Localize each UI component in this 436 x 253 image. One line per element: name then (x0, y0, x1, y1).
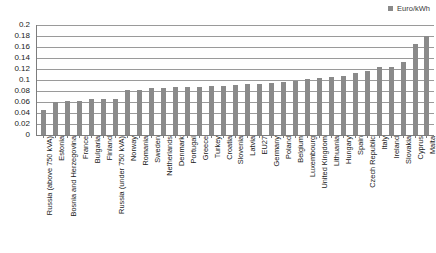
x-axis-label-slot: Bulgaria (85, 136, 97, 248)
y-axis-tick-labels: 00.020.040.060.080.10.120.140.160.180.2 (0, 21, 33, 135)
bar-slot (218, 25, 230, 135)
bar-slot (158, 25, 170, 135)
x-axis-label-slot: Lithuania (324, 136, 336, 248)
bar-slot (253, 25, 265, 135)
bar-slot (373, 25, 385, 135)
bar (209, 86, 214, 135)
x-axis-label-slot: Belgium (288, 136, 300, 248)
x-axis-label-slot: Italy (372, 136, 384, 248)
bar (353, 73, 358, 135)
bar-slot (301, 25, 313, 135)
bar-slot (38, 25, 50, 135)
y-axis-tick-label: 0.1 (19, 76, 30, 84)
x-axis-label-slot: Netherlands (157, 136, 169, 248)
legend-entry-label: Euro/kWh (397, 4, 430, 13)
bar (197, 87, 202, 135)
bar-slot (349, 25, 361, 135)
bar-slot (110, 25, 122, 135)
x-axis-label-slot: Latvia (240, 136, 252, 248)
x-axis-label-slot: Sweden (145, 136, 157, 248)
bar-chart: Euro/kWh 00.020.040.060.080.10.120.140.1… (0, 0, 436, 253)
y-axis-tick-label: 0.08 (14, 87, 30, 95)
bar-slot (86, 25, 98, 135)
bar (125, 90, 130, 135)
bar-slot (397, 25, 409, 135)
y-axis-tick-label: 0.04 (14, 109, 30, 117)
y-axis-tick-label: 0.12 (14, 65, 30, 73)
y-axis-tick-label: 0.16 (14, 43, 30, 51)
x-axis-label-slot: EU27 (252, 136, 264, 248)
bar-slot (265, 25, 277, 135)
bar (269, 83, 274, 135)
bar-slot (182, 25, 194, 135)
bar (317, 78, 322, 135)
square-marker-icon (388, 6, 393, 11)
x-axis-label-slot: Slovakia (396, 136, 408, 248)
bar-slot (50, 25, 62, 135)
bar (185, 87, 190, 135)
bar (53, 102, 58, 135)
y-axis-tick-label: 0.02 (14, 120, 30, 128)
bar (341, 76, 346, 135)
x-axis-label-slot: Finland (97, 136, 109, 248)
x-axis-label-slot: Luxembourg (300, 136, 312, 248)
y-axis-tick-label: 0.06 (14, 98, 30, 106)
bar (89, 99, 94, 135)
bar (65, 101, 70, 135)
x-axis-label-slot: Russia (above 750 kVA) (37, 136, 49, 248)
chart-legend: Euro/kWh (388, 2, 430, 14)
bar-slot (146, 25, 158, 135)
bar (77, 101, 82, 135)
x-axis-label-slot: Germany (264, 136, 276, 248)
x-axis-label-slot: Czech Republic (360, 136, 372, 248)
x-axis-label-slot: Portugal (181, 136, 193, 248)
x-axis-label-slot: Denmark (169, 136, 181, 248)
y-axis-tick-label: 0 (26, 131, 30, 139)
x-axis-label-slot: France (73, 136, 85, 248)
bar-slot (337, 25, 349, 135)
x-axis-label-slot: Romania (133, 136, 145, 248)
bar (305, 79, 310, 135)
bar (389, 67, 394, 135)
bar (161, 88, 166, 135)
bar (293, 81, 298, 135)
x-axis-label-slot: United Kingdom (312, 136, 324, 248)
bar-slot (289, 25, 301, 135)
bar-slot (98, 25, 110, 135)
bar-slot (277, 25, 289, 135)
x-axis-category-label: Malta (429, 136, 436, 154)
y-axis-tick-label: 0.18 (14, 32, 30, 40)
bar (401, 62, 406, 135)
y-axis-tick-label: 0.2 (19, 21, 30, 29)
bar-slot (74, 25, 86, 135)
bar-slot (62, 25, 74, 135)
plot-area (36, 25, 434, 136)
x-axis-label-slot: Malta (420, 136, 432, 248)
x-axis-label-slot: Cyprus (408, 136, 420, 248)
bar (41, 110, 46, 135)
bar-slot (409, 25, 421, 135)
bar-slot (230, 25, 242, 135)
bar (137, 90, 142, 135)
x-axis-label-slot: Greece (193, 136, 205, 248)
bar (413, 44, 418, 135)
x-axis-label-slot: Spain (348, 136, 360, 248)
bar (101, 99, 106, 135)
bar (245, 84, 250, 135)
bar (424, 36, 429, 135)
bar-series (37, 25, 434, 135)
bar (329, 77, 334, 135)
bar (149, 88, 154, 135)
x-axis-label-slot: Ireland (384, 136, 396, 248)
bar-slot (385, 25, 397, 135)
bar-slot (206, 25, 218, 135)
bar-slot (325, 25, 337, 135)
bar-slot (134, 25, 146, 135)
x-axis-label-slot: Bosnia and Herzegovina (61, 136, 73, 248)
bar-slot (194, 25, 206, 135)
x-axis-label-slot: Hungary (336, 136, 348, 248)
x-axis-label-slot: Croatia (217, 136, 229, 248)
bar (365, 71, 370, 135)
bar (233, 85, 238, 135)
bar-slot (313, 25, 325, 135)
